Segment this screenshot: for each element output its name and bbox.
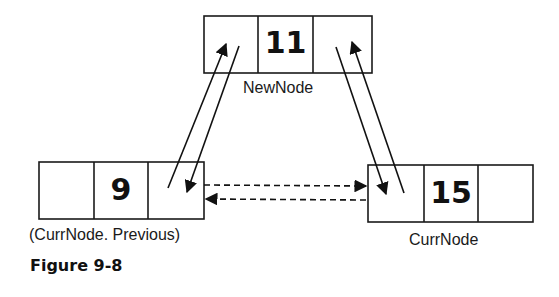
figure-caption: Figure 9-8 [30,256,122,275]
prev-node-label: (CurrNode. Previous) [29,226,180,244]
new-prev-to-prev-arrow [187,46,239,192]
old-links [204,185,366,200]
prev-next-to-new-arrow [168,44,226,188]
prev-node-value: 9 [94,172,148,207]
old-next-dashed-arrow [204,185,366,186]
new-node-label: NewNode [243,79,313,97]
curr-node-label: CurrNode [409,231,478,249]
new-node-value: 11 [258,25,313,60]
new-curr-links [336,42,404,194]
curr-node-value: 15 [424,175,478,210]
old-prev-dashed-arrow [206,199,366,200]
